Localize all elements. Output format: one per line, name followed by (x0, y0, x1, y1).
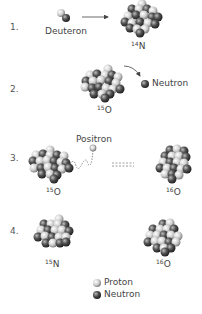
step-number-4: 4. (10, 226, 19, 236)
transition-dashes-icon (112, 163, 134, 166)
nucleus-15o-step3 (29, 146, 74, 184)
neutron-label: Neutron (152, 78, 188, 88)
deuteron-label: Deuteron (45, 26, 87, 36)
nucleus-15o-step2 (81, 65, 125, 103)
diagram-canvas (0, 0, 202, 314)
isotope-label-15n: 15N (45, 258, 59, 269)
isotope-label-15o-step2: 15O (97, 104, 112, 115)
positron-path-icon (70, 150, 93, 169)
legend-proton-label: Proton (104, 277, 133, 287)
neutron-particle (141, 80, 149, 88)
isotope-label-16o-step3: 16O (166, 186, 181, 197)
step-number-2: 2. (10, 84, 19, 94)
step-number-3: 3. (10, 153, 19, 163)
deuteron-particle (57, 9, 70, 22)
nucleus-16o-step3 (156, 145, 192, 184)
isotope-label-16o-step4: 16O (156, 258, 171, 269)
positron-label: Positron (76, 134, 112, 144)
positron-particle (90, 145, 96, 151)
step-number-1: 1. (10, 22, 19, 32)
legend-neutron-icon (93, 291, 101, 299)
isotope-label-14n: 14N (131, 40, 145, 51)
ejection-arrow-icon (124, 66, 140, 76)
nucleus-15n (34, 215, 74, 248)
legend-proton-icon (93, 279, 101, 287)
isotope-label-15o-step3: 15O (46, 186, 61, 197)
nucleus-14n (121, 0, 163, 38)
legend-neutron-label: Neutron (104, 289, 140, 299)
nucleus-16o-step4 (144, 219, 183, 257)
